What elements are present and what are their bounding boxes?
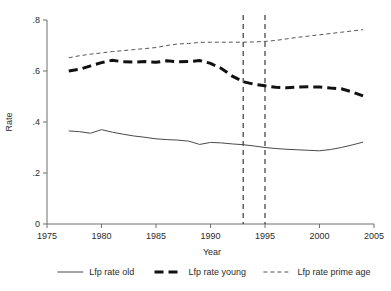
x-axis-ticks: 1975198019851990199520002005 xyxy=(37,224,384,241)
series-line-lfp-rate-young xyxy=(69,60,363,96)
x-tick-label: 1985 xyxy=(146,231,166,241)
y-tick-label: .2 xyxy=(32,168,40,178)
x-tick-label: 1990 xyxy=(200,231,220,241)
chart-figure: 0.2.4.6.8 1975198019851990199520002005 Y… xyxy=(0,0,391,291)
legend-label-2: Lfp rate prime age xyxy=(297,267,370,277)
x-axis-title: Year xyxy=(203,247,221,257)
y-tick-label: 0 xyxy=(35,219,40,229)
x-tick-label: 1980 xyxy=(91,231,111,241)
y-axis-ticks: 0.2.4.6.8 xyxy=(32,15,47,229)
series-line-lfp-rate-prime-age xyxy=(69,30,363,58)
x-tick-label: 1975 xyxy=(37,231,57,241)
x-tick-label: 2005 xyxy=(364,231,384,241)
y-axis-title: Rate xyxy=(4,112,14,131)
series-line-lfp-rate-old xyxy=(69,130,363,151)
y-tick-label: .6 xyxy=(32,66,40,76)
legend-label-0: Lfp rate old xyxy=(89,267,134,277)
chart-legend: Lfp rate oldLfp rate youngLfp rate prime… xyxy=(57,267,370,277)
line-chart-canvas: 0.2.4.6.8 1975198019851990199520002005 Y… xyxy=(0,0,391,291)
y-tick-label: .4 xyxy=(32,117,40,127)
x-tick-label: 1995 xyxy=(255,231,275,241)
annotation-vertical-lines xyxy=(243,15,265,224)
legend-label-1: Lfp rate young xyxy=(189,267,247,277)
y-tick-label: .8 xyxy=(32,15,40,25)
x-tick-label: 2000 xyxy=(309,231,329,241)
data-series-group xyxy=(69,30,363,151)
